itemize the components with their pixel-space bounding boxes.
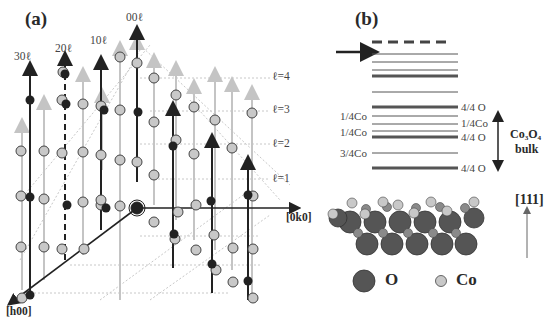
bulk-label-formula: Co₃O₄ — [510, 127, 541, 142]
cobalt-legend-icon — [436, 276, 447, 287]
left-label-3: 3/4Co — [340, 147, 367, 159]
panel-b-label: (b) — [355, 8, 378, 30]
legend-label-oxygen: O — [385, 270, 398, 290]
figure: (a) 30ℓ 20ℓ 10ℓ 00ℓ ℓ=4 ℓ=3 ℓ=2 ℓ=1 [h00… — [0, 0, 555, 323]
left-label-1: 1/4Co — [340, 110, 367, 122]
oxygen-legend-icon — [353, 270, 375, 292]
bulk-label-text: bulk — [515, 142, 538, 157]
direction-label-111: [111] — [515, 192, 544, 208]
left-label-2: 1/4Co — [340, 126, 367, 138]
right-label-1: 4/4 O — [461, 101, 486, 113]
legend-label-cobalt: Co — [456, 270, 477, 290]
right-label-2: 1/4Co — [461, 117, 488, 129]
right-label-4: 4/4 O — [461, 162, 486, 174]
right-label-3: 4/4 O — [461, 131, 486, 143]
